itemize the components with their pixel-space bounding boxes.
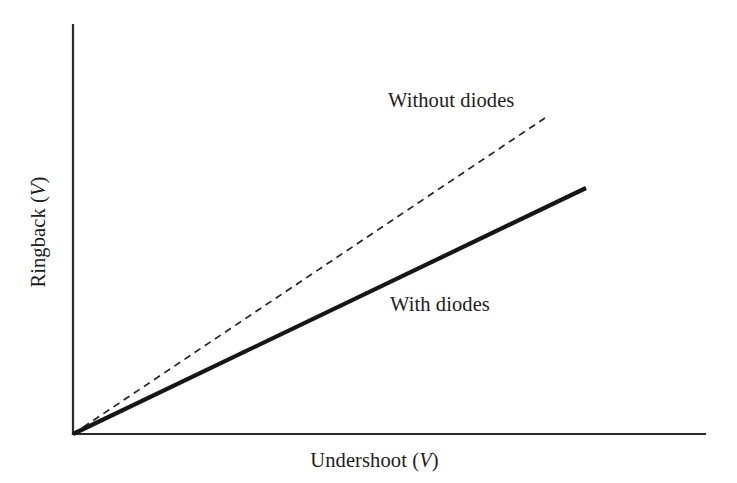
series-label-with-diodes: With diodes [390, 294, 490, 315]
chart-figure: Without diodes With diodes Undershoot (V… [0, 0, 737, 483]
series-label-without-diodes: Without diodes [388, 90, 514, 111]
y-axis-title-close: ) [27, 176, 49, 183]
plot-canvas [0, 0, 737, 483]
x-axis-title-text: Undershoot ( [310, 449, 419, 471]
y-axis-title: Ringback (V) [28, 176, 49, 287]
series-line-without-diodes [73, 118, 545, 434]
x-axis-unit-symbol: V [419, 449, 432, 471]
x-axis-title: Undershoot (V) [0, 450, 737, 471]
x-axis-title-close: ) [432, 449, 439, 471]
series-label-with-diodes-text: With diodes [390, 293, 490, 315]
series-label-without-diodes-text: Without diodes [388, 89, 514, 111]
series-line-with-diodes [73, 188, 586, 434]
y-axis-unit-symbol: V [27, 183, 49, 196]
y-axis-title-text: Ringback ( [27, 196, 49, 288]
